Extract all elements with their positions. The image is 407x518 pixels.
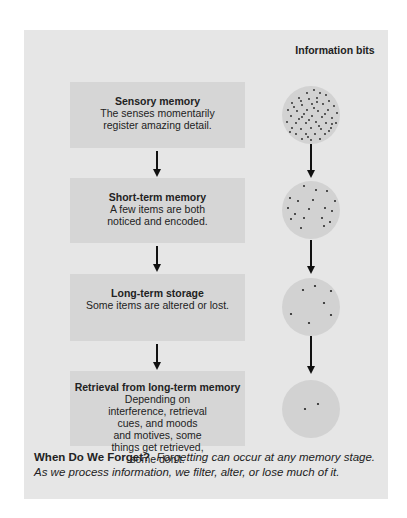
dots-icon: [282, 380, 340, 438]
info-bits-circle-retrieval: [282, 380, 340, 438]
information-bits-header: Information bits: [292, 45, 378, 56]
dots-icon: [282, 278, 340, 336]
arrow-down-icon: [310, 240, 312, 268]
info-bits-circle-short-term: [282, 181, 340, 239]
stage-title: Retrieval from long-term memory: [70, 381, 245, 393]
stage-title: Sensory memory: [70, 95, 245, 107]
stage-box-long-term-storage: Long-term storage Some items are altered…: [70, 274, 245, 341]
info-bits-circle-sensory: [282, 86, 340, 144]
figure-panel: Information bits Sensory memory The sens…: [24, 30, 388, 499]
caption-title: When Do We Forget?: [34, 451, 150, 463]
stage-box-short-term-memory: Short-term memory A few items are both n…: [70, 178, 245, 243]
arrow-down-icon: [156, 151, 158, 171]
arrow-down-icon: [310, 144, 312, 172]
stage-description: The senses momentarily register amazing …: [70, 107, 245, 131]
stage-box-retrieval: Retrieval from long-term memory Dependin…: [70, 371, 245, 446]
figure-caption: When Do We Forget? Forgetting can occur …: [34, 450, 384, 480]
info-bits-circle-long-term: [282, 278, 340, 336]
stage-description: A few items are both noticed and encoded…: [70, 203, 245, 227]
arrow-down-icon: [156, 246, 158, 266]
dots-icon: [282, 181, 340, 239]
stage-description: Some items are altered or lost.: [70, 299, 245, 311]
arrow-down-icon: [156, 344, 158, 364]
stage-title: Long-term storage: [70, 287, 245, 299]
dots-icon: [282, 86, 340, 144]
arrow-down-icon: [310, 336, 312, 368]
stage-title: Short-term memory: [70, 191, 245, 203]
stage-box-sensory-memory: Sensory memory The senses momentarily re…: [70, 82, 245, 148]
